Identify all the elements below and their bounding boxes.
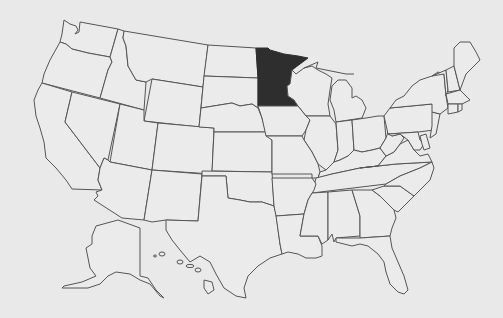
state-new-mexico[interactable] [144, 170, 202, 222]
state-iowa[interactable] [258, 106, 310, 136]
state-pennsylvania[interactable] [384, 104, 434, 134]
state-colorado[interactable] [152, 123, 214, 174]
state-florida[interactable] [336, 236, 408, 294]
state-north-dakota[interactable] [204, 45, 258, 78]
us-map [0, 0, 503, 318]
state-nebraska[interactable] [199, 103, 266, 132]
state-connecticut[interactable] [448, 104, 458, 114]
state-michigan-lower[interactable] [330, 80, 366, 122]
state-rhode-island[interactable] [458, 104, 462, 112]
state-maine[interactable] [454, 42, 480, 90]
state-montana[interactable] [123, 31, 208, 87]
state-kansas[interactable] [212, 132, 272, 172]
us-map-svg [0, 0, 503, 318]
state-new-jersey[interactable] [430, 112, 440, 138]
state-alaska[interactable] [62, 220, 164, 298]
state-wyoming[interactable] [144, 79, 203, 127]
